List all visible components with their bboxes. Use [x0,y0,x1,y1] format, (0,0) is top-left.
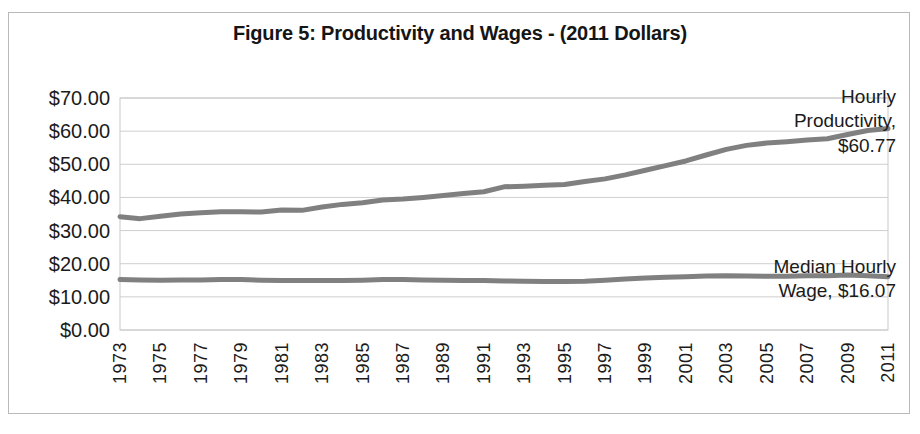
x-tick-label: 1993 [514,342,535,384]
x-tick-label: 1975 [150,342,171,384]
x-tick-label: 1995 [555,342,576,384]
series-label-wage: Median Hourly Wage, $16.07 [666,255,896,304]
x-tick-label: 2009 [838,342,859,384]
x-tick-label: 1985 [353,342,374,384]
x-tick-label: 1979 [231,342,252,384]
x-tick-label: 1981 [272,342,293,384]
series-label-productivity: Hourly Productivity, $60.77 [676,85,896,158]
x-tick-label: 1999 [635,342,656,384]
x-tick-label: 1973 [110,342,131,384]
x-tick-label: 2011 [878,342,899,383]
x-tick-label: 2007 [797,342,818,384]
x-tick-label: 2003 [716,342,737,384]
x-tick-label: 1987 [393,342,414,384]
x-tick-label: 1991 [474,342,495,384]
x-tick-label: 1983 [312,342,333,384]
x-tick-label: 2005 [757,342,778,384]
x-tick-label: 1997 [595,342,616,384]
figure-container: Figure 5: Productivity and Wages - (2011… [0,0,920,434]
x-axis: 1973197519771979198119831985198719891991… [0,0,920,434]
x-tick-label: 2001 [676,342,697,384]
x-tick-label: 1989 [433,342,454,384]
x-tick-label: 1977 [191,342,212,384]
